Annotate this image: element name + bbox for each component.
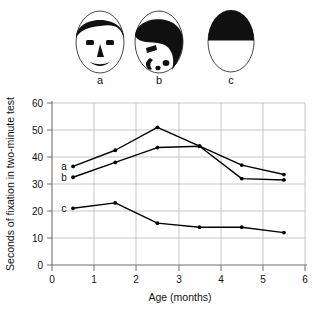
data-point <box>71 175 75 179</box>
series-b <box>71 144 286 182</box>
x-tick-0: 0 <box>49 274 55 285</box>
x-tick-5: 5 <box>260 274 266 285</box>
stimulus-b-label: b <box>156 74 162 86</box>
y-tick-10: 10 <box>32 233 44 244</box>
blank-face-icon <box>208 10 254 72</box>
normal-face-icon <box>76 11 124 73</box>
x-tick-4: 4 <box>218 274 224 285</box>
x-tick-2: 2 <box>133 274 139 285</box>
y-tick-0: 0 <box>37 260 43 271</box>
data-point <box>156 146 160 150</box>
stimulus-a-label: a <box>97 74 104 86</box>
series-line-b <box>73 146 284 180</box>
x-axis-title: Age (months) <box>148 291 211 303</box>
x-tick-1: 1 <box>91 274 97 285</box>
stimulus-a: a <box>76 11 124 86</box>
data-point <box>113 161 117 165</box>
data-point <box>198 225 202 229</box>
data-series-layer <box>71 125 286 234</box>
data-point <box>156 221 160 225</box>
series-line-a <box>73 127 284 174</box>
x-tick-3: 3 <box>176 274 182 285</box>
y-axis-title: Seconds of fixation in two-minute test <box>4 97 16 271</box>
scrambled-face-icon <box>135 11 183 73</box>
data-point <box>156 125 160 129</box>
data-point <box>113 201 117 205</box>
series-label-b: b <box>61 172 67 183</box>
data-point <box>282 231 286 235</box>
series-label-c: c <box>62 203 67 214</box>
data-point <box>282 178 286 182</box>
data-point <box>282 173 286 177</box>
figure-root: a b c <box>0 0 317 316</box>
y-axis-ticks <box>47 103 52 265</box>
series-line-c <box>73 203 284 233</box>
data-point <box>240 177 244 181</box>
data-point <box>113 148 117 152</box>
stimulus-c-label: c <box>228 74 234 86</box>
y-tick-40: 40 <box>32 152 44 163</box>
data-point <box>240 163 244 167</box>
y-tick-50: 50 <box>32 125 44 136</box>
data-point <box>71 165 75 169</box>
y-tick-labels: 60 50 40 30 20 10 0 <box>32 98 44 271</box>
x-tick-labels: 0 1 2 3 4 5 6 <box>49 274 308 285</box>
x-axis-ticks <box>52 265 305 271</box>
stimulus-c: c <box>208 10 254 86</box>
chart-plot: 60 50 40 30 20 10 0 0 1 2 3 4 5 6 Age (m… <box>4 97 308 303</box>
series-label-a: a <box>61 161 67 172</box>
y-tick-60: 60 <box>32 98 44 109</box>
y-tick-30: 30 <box>32 179 44 190</box>
data-point <box>198 144 202 148</box>
series-c <box>71 201 286 235</box>
series-a <box>71 125 286 176</box>
stimulus-b: b <box>135 11 183 86</box>
x-tick-6: 6 <box>302 274 308 285</box>
y-tick-20: 20 <box>32 206 44 217</box>
data-point <box>71 206 75 210</box>
data-point <box>240 225 244 229</box>
